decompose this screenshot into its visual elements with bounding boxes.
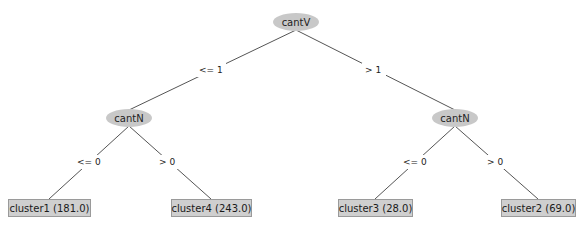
node-root-label: cantV — [282, 17, 311, 28]
leaf-cluster4: cluster4 (243.0) — [172, 200, 252, 217]
edge-label-root-left: <= 1 — [199, 65, 223, 75]
leaf-cluster2: cluster2 (69.0) — [502, 200, 576, 217]
node-root: cantV — [273, 13, 319, 31]
leaf-cluster2-label: cluster2 (69.0) — [502, 203, 576, 214]
node-right-label: cantN — [440, 113, 469, 124]
leaf-cluster4-label: cluster4 (243.0) — [172, 203, 252, 214]
decision-tree-diagram: <= 1 > 1 <= 0 > 0 <= 0 > 0 cantV cantN c… — [0, 0, 584, 226]
leaf-cluster1: cluster1 (181.0) — [9, 200, 91, 217]
edge-label-right-leaf3: <= 0 — [403, 157, 427, 167]
leaf-cluster3-label: cluster3 (28.0) — [339, 203, 413, 214]
edge-label-right-leaf2: > 0 — [487, 157, 503, 167]
leaf-cluster1-label: cluster1 (181.0) — [10, 203, 90, 214]
edge-label-left-leaf1: <= 0 — [77, 157, 101, 167]
node-left-label: cantN — [114, 113, 143, 124]
node-left: cantN — [106, 109, 152, 127]
edge-label-left-leaf4: > 0 — [159, 157, 175, 167]
edge-label-root-right: > 1 — [365, 65, 381, 75]
leaf-cluster3: cluster3 (28.0) — [339, 200, 413, 217]
node-right: cantN — [432, 109, 478, 127]
